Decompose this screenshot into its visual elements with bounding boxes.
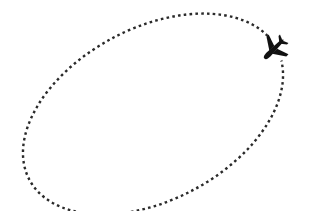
- flight-path-illustration: [0, 0, 313, 211]
- illustration-canvas: Dotted elliptical flight path with airpl…: [0, 0, 313, 211]
- flight-path: [0, 0, 313, 211]
